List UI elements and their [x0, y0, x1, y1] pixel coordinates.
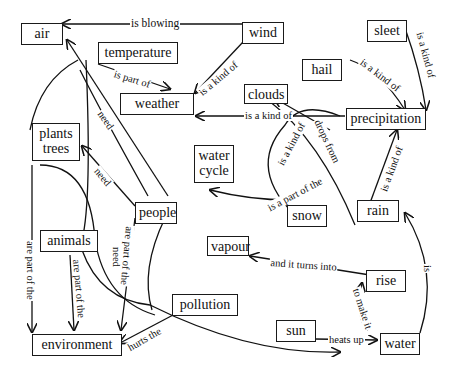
- link-label-precip-weather: is a kind of: [244, 110, 293, 121]
- node-water: water: [380, 333, 420, 355]
- plants-label: plants: [36, 126, 76, 141]
- node-water-cycle: water cycle: [194, 145, 234, 183]
- concept-map: air temperature wind sleet weather hail …: [0, 0, 456, 374]
- node-rise: rise: [366, 270, 406, 292]
- link-label-is-blowing: is blowing: [130, 18, 180, 29]
- node-hail: hail: [302, 59, 342, 81]
- node-temperature: temperature: [98, 42, 178, 64]
- node-environment: environment: [32, 334, 122, 356]
- link-label-plants-env: are part of the: [25, 240, 36, 301]
- node-plants-trees: plants trees: [32, 123, 80, 161]
- node-vapour: vapour: [207, 236, 249, 256]
- node-wind: wind: [242, 22, 284, 44]
- node-pollution: pollution: [172, 294, 238, 316]
- node-snow: snow: [287, 205, 327, 227]
- node-clouds: clouds: [244, 84, 288, 104]
- cycle-label: cycle: [198, 163, 230, 178]
- water-label: water: [198, 148, 230, 163]
- node-air: air: [21, 23, 63, 45]
- node-animals: animals: [40, 230, 98, 252]
- trees-label: trees: [36, 141, 76, 156]
- node-weather: weather: [120, 93, 194, 115]
- link-label-heats-up: heats up: [328, 334, 365, 345]
- node-sun: sun: [276, 320, 316, 342]
- node-rain: rain: [357, 200, 399, 222]
- link-label-water-rain: is: [422, 264, 433, 273]
- node-precipitation: precipitation: [346, 108, 426, 130]
- node-sleet: sleet: [367, 20, 407, 42]
- node-people: people: [135, 202, 177, 224]
